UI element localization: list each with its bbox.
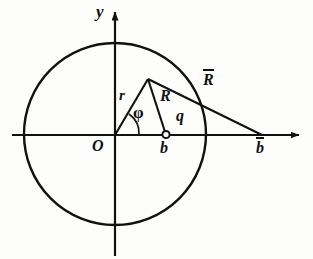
- label-phi: φ: [133, 104, 144, 121]
- label-b-bar: b: [256, 140, 264, 156]
- label-b-bar-text: b: [256, 139, 264, 156]
- label-r: r: [119, 88, 125, 103]
- figure-drawing: [0, 0, 313, 259]
- label-R-bar: R: [203, 72, 214, 88]
- origin-label: O: [92, 138, 104, 154]
- overbar-icon: [256, 137, 264, 139]
- label-R-bar-text: R: [203, 71, 214, 88]
- point-marker-b: [162, 131, 169, 138]
- label-b: b: [160, 140, 168, 156]
- figure-canvas: y O r φ R q b R b: [0, 0, 313, 259]
- y-axis-label: y: [96, 3, 104, 20]
- overbar-icon: [203, 69, 214, 71]
- label-q: q: [176, 108, 184, 124]
- label-R: R: [160, 88, 171, 104]
